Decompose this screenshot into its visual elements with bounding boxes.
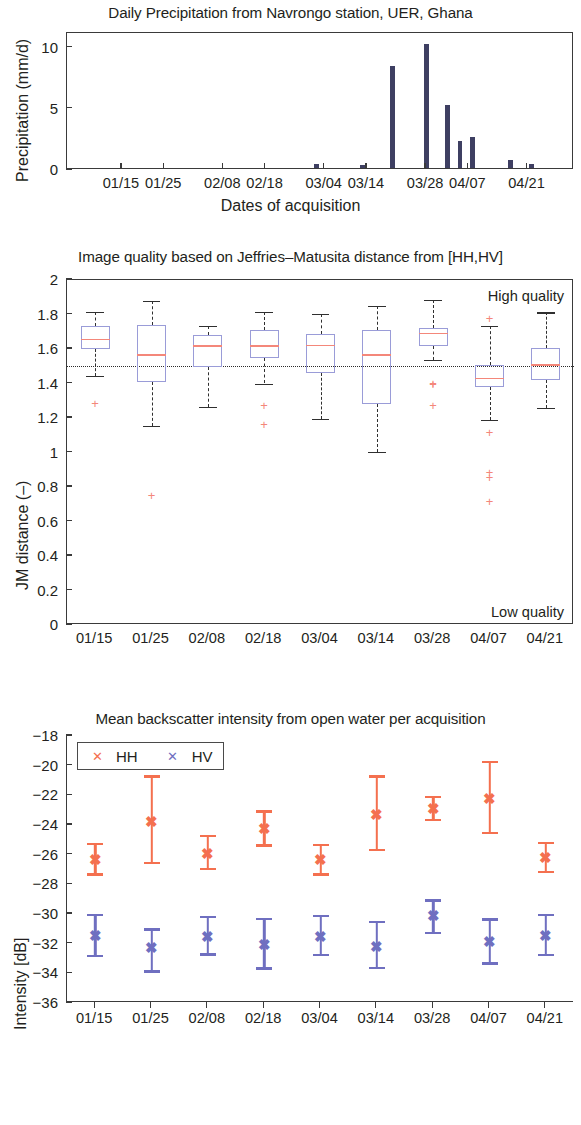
boxplot-whisker-lower xyxy=(377,404,378,452)
errorbar-cap-bottom-hh xyxy=(144,862,160,864)
precipitation-bar xyxy=(529,164,534,168)
boxplot-whisker-lower xyxy=(321,373,322,419)
precipitation-x-tick-mark xyxy=(264,163,265,169)
jm-y-tick-mark xyxy=(66,623,72,624)
legend-label-hh: HH xyxy=(116,748,138,765)
jm-y-tick-mark xyxy=(66,347,72,348)
boxplot-whisker-lower xyxy=(264,358,265,383)
errorbar-marker-hv: ✖ xyxy=(539,927,552,942)
intensity-x-tick-label: 03/14 xyxy=(358,1010,395,1026)
intensity-y-tick-mark xyxy=(66,883,72,884)
jm-y-tick-label: 1.2 xyxy=(37,409,58,426)
boxplot-whisker-upper xyxy=(95,312,96,326)
intensity-y-tick-label: −36 xyxy=(33,994,58,1011)
precipitation-y-axis-label: Precipitation (mm/d) xyxy=(14,39,32,182)
errorbar-marker-hv: ✖ xyxy=(145,940,158,955)
intensity-y-tick-label: −34 xyxy=(33,964,58,981)
boxplot-box xyxy=(81,326,110,349)
boxplot-median xyxy=(306,345,335,346)
jm-y-tick-mark xyxy=(66,520,72,521)
errorbar-cap-top-hv xyxy=(538,914,554,916)
precipitation-x-tick-label: 02/18 xyxy=(246,175,283,191)
precipitation-x-tick-label: 01/15 xyxy=(103,175,140,191)
errorbar-cap-top-hv xyxy=(256,918,272,920)
jm-y-tick-label: 0.4 xyxy=(37,547,58,564)
errorbar-cap-top-hh xyxy=(87,843,103,845)
boxplot-whisker-upper xyxy=(208,326,209,335)
jm-y-tick-label: 0.8 xyxy=(37,478,58,495)
intensity-y-tick-mark xyxy=(66,912,72,913)
quality-annotation: High quality xyxy=(488,288,564,304)
boxplot-box xyxy=(362,330,391,403)
precipitation-x-tick-label: 04/21 xyxy=(508,175,545,191)
boxplot-outlier: + xyxy=(429,378,437,391)
precipitation-y-tick-label: 0 xyxy=(50,161,58,178)
boxplot-whisker-upper xyxy=(152,301,153,326)
boxplot-outlier: + xyxy=(429,398,437,411)
precipitation-x-tick-mark xyxy=(323,163,324,169)
intensity-y-tick-mark xyxy=(66,794,72,795)
intensity-x-tick-label: 03/04 xyxy=(301,1010,338,1026)
jm-y-tick-mark xyxy=(66,416,72,417)
boxplot-whisker-lower xyxy=(433,346,434,360)
precipitation-x-tick-mark xyxy=(526,163,527,169)
precipitation-x-tick-mark xyxy=(365,163,366,169)
precipitation-bar xyxy=(445,105,450,168)
intensity-x-tick-label: 02/08 xyxy=(189,1010,226,1026)
image-quality-title: Image quality based on Jeffries–Matusita… xyxy=(0,248,581,265)
errorbar-cap-top-hh xyxy=(425,796,441,798)
jm-y-tick-label: 0.6 xyxy=(37,512,58,529)
boxplot-whisker-cap-upper xyxy=(537,312,555,313)
errorbar-marker-hv: ✖ xyxy=(483,934,496,949)
errorbar-cap-bottom-hh xyxy=(256,844,272,846)
boxplot-whisker-cap-upper xyxy=(312,314,330,315)
boxplot-whisker-cap-lower xyxy=(255,384,273,385)
image-quality-plot-area: ++++++++++++ High qualityLow quality xyxy=(66,279,573,624)
legend-marker-hh-icon: ✕ xyxy=(88,750,106,763)
errorbar-marker-hh: ✖ xyxy=(427,801,440,816)
jm-y-tick-mark xyxy=(66,313,72,314)
jm-x-tick-label: 02/08 xyxy=(189,630,226,646)
precipitation-bar xyxy=(314,164,319,168)
intensity-x-tick-mark xyxy=(206,1002,207,1008)
intensity-y-tick-label: −32 xyxy=(33,934,58,951)
errorbar-marker-hh: ✖ xyxy=(145,814,158,829)
errorbar-marker-hv: ✖ xyxy=(314,928,327,943)
precipitation-x-tick-label: 03/04 xyxy=(305,175,342,191)
intensity-x-tick-label: 03/28 xyxy=(414,1010,451,1026)
precipitation-title: Daily Precipitation from Navrongo statio… xyxy=(0,4,581,21)
intensity-x-tick-mark xyxy=(150,1002,151,1008)
errorbar-cap-bottom-hh xyxy=(313,873,329,875)
jm-y-tick-mark xyxy=(66,485,72,486)
jm-y-tick-label: 1.6 xyxy=(37,340,58,357)
boxplot-outlier: + xyxy=(486,426,494,439)
intensity-y-tick-label: −20 xyxy=(33,756,58,773)
errorbar-cap-bottom-hh xyxy=(369,849,385,851)
precipitation-x-tick-label: 03/28 xyxy=(407,175,444,191)
precipitation-x-tick-label: 01/25 xyxy=(145,175,182,191)
jm-y-tick-mark xyxy=(66,382,72,383)
boxplot-outlier: + xyxy=(260,399,268,412)
boxplot-whisker-cap-lower xyxy=(143,426,161,427)
intensity-y-tick-mark xyxy=(66,823,72,824)
jm-y-tick-label: 2 xyxy=(50,271,58,288)
errorbar-marker-hv: ✖ xyxy=(258,937,271,952)
precipitation-bar xyxy=(390,66,395,168)
errorbar-cap-top-hh xyxy=(538,842,554,844)
boxplot-outlier: + xyxy=(486,494,494,507)
precipitation-x-tick-label: 04/07 xyxy=(449,175,486,191)
errorbar-marker-hh: ✖ xyxy=(483,791,496,806)
errorbar-marker-hv: ✖ xyxy=(201,928,214,943)
precipitation-y-tick-mark xyxy=(66,168,72,169)
errorbar-cap-bottom-hv xyxy=(256,967,272,969)
backscatter-legend: ✕ HH ✕ HV xyxy=(77,742,224,770)
intensity-y-tick-mark xyxy=(66,734,72,735)
boxplot-whisker-cap-lower xyxy=(86,376,104,377)
intensity-x-tick-label: 04/07 xyxy=(470,1010,507,1026)
errorbar-cap-bottom-hv xyxy=(482,962,498,964)
precipitation-x-tick-label: 03/14 xyxy=(348,175,385,191)
jm-x-tick-label: 03/04 xyxy=(301,630,338,646)
intensity-y-tick-label: −24 xyxy=(33,816,58,833)
errorbar-cap-bottom-hv xyxy=(144,970,160,972)
boxplot-outlier: + xyxy=(486,311,494,324)
